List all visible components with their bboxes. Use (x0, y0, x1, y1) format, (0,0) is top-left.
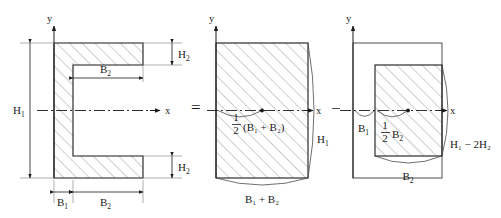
channel-y-axis-label: y (47, 13, 53, 24)
svg-text:(B₁ + B₂): (B₁ + B₂) (243, 121, 285, 134)
channel-h2-bottom-label: H2 (178, 161, 190, 176)
full-rect-width-label: B₁ + B₂ (245, 193, 279, 205)
inner-rect-width-label: B2 (402, 170, 413, 185)
channel-h1-label: H1 (13, 104, 25, 119)
channel-x-axis-label: x (165, 105, 171, 116)
equals-operator: = (191, 98, 201, 117)
panel-full-rectangle: y x 1 2 (B₁ + B₂) H1 B₁ + B₂ (207, 13, 329, 205)
channel-b1-label: B1 (57, 196, 68, 211)
subtracted-y-axis-label: y (346, 13, 352, 24)
full-rect-h1-label: H1 (317, 133, 329, 148)
svg-text:1: 1 (233, 111, 239, 123)
full-rect-centroid-dot (260, 109, 264, 113)
full-rect-x-axis-label: x (316, 105, 322, 116)
full-rect-y-axis-label: y (209, 13, 215, 24)
panel-subtracted-rectangle: y x B1 1 2 B2 H₁ (340, 13, 491, 185)
minus-operator: − (331, 99, 341, 118)
channel-h2-top-label: H2 (178, 48, 190, 63)
subtracted-b1-leader (355, 111, 374, 117)
svg-text:2: 2 (382, 132, 388, 144)
channel-b2-bottom-label: B2 (100, 196, 111, 211)
subtracted-b1-label: B1 (358, 122, 369, 137)
figure-root: y x H1 H2 H2 (0, 0, 501, 218)
diagram-svg: y x H1 H2 H2 (0, 0, 501, 218)
inner-rect-width-brace (375, 156, 442, 163)
subtracted-x-axis-label: x (450, 105, 456, 116)
svg-text:2: 2 (233, 124, 239, 136)
full-rect-width-brace (216, 178, 308, 185)
svg-text:1: 1 (382, 119, 388, 131)
inner-rect-centroid-dot (406, 109, 410, 113)
inner-rect-height-label: H₁ − 2H₂ (450, 138, 491, 150)
panel-channel-section: y x H1 H2 H2 (13, 13, 190, 211)
